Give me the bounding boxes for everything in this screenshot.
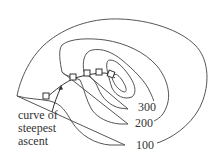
contour-label-300: 300	[137, 101, 157, 114]
right-angle-marker	[107, 70, 115, 78]
contour-label-200: 200	[134, 117, 154, 130]
right-angle-marker	[96, 69, 102, 75]
contour-label-100: 100	[135, 139, 155, 152]
contour-diagram: 300 200 100 curve of steepest ascent	[0, 0, 219, 161]
caption-line-3: ascent	[18, 135, 58, 148]
right-angle-marker	[84, 70, 90, 76]
annotation-caption: curve of steepest ascent	[18, 109, 58, 148]
right-angle-marker	[70, 74, 76, 80]
right-angle-marker	[43, 93, 49, 99]
